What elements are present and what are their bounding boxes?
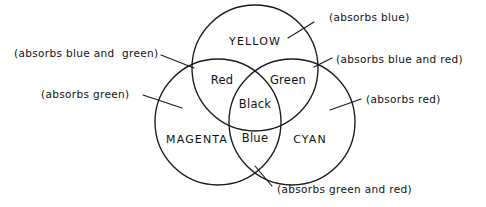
leader-line-absorbs-green <box>143 95 182 108</box>
region-label-blue: Blue <box>242 131 268 145</box>
circle-label-magenta: MAGENTA <box>166 133 228 146</box>
region-label-red: Red <box>211 73 234 87</box>
callout-label-absorbs-blue: (absorbs blue) <box>329 11 410 23</box>
region-label-green: Green <box>270 73 306 87</box>
circle-label-yellow: YELLOW <box>229 35 281 48</box>
leader-line-absorbs-green-and-red <box>255 166 272 186</box>
callout-label-absorbs-blue-and-green: (absorbs blue and green) <box>14 47 159 59</box>
venn-diagram-figure: YELLOWMAGENTACYANRedGreenBlackBlue(absor… <box>0 0 486 207</box>
leader-line-absorbs-red <box>330 99 361 110</box>
leader-line-absorbs-blue-and-green <box>161 55 194 68</box>
region-label-black: Black <box>239 97 271 111</box>
circle-label-cyan: CYAN <box>293 133 327 146</box>
callout-label-absorbs-green: (absorbs green) <box>41 88 130 100</box>
callout-label-absorbs-blue-and-red: (absorbs blue and red) <box>336 53 463 65</box>
venn-circles-group <box>155 5 355 185</box>
leader-line-absorbs-blue-and-red <box>314 58 332 67</box>
venn-circle-yellow <box>192 5 318 131</box>
callout-label-absorbs-green-and-red: (absorbs green and red) <box>277 183 412 195</box>
callout-label-absorbs-red: (absorbs red) <box>366 93 441 105</box>
